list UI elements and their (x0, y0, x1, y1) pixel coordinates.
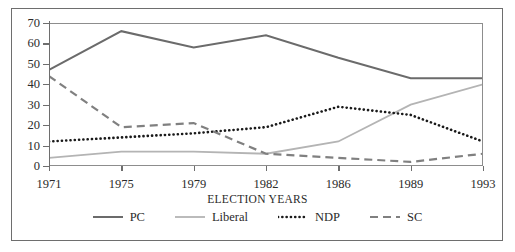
legend-label: PC (130, 211, 145, 224)
y-axis-tick-label: 0 (34, 160, 40, 173)
election-results-line-chart: 010203040506070 197119751979198219861989… (0, 0, 515, 252)
x-axis-tick-label: 1993 (471, 178, 496, 191)
plot-area: 010203040506070 (49, 23, 483, 166)
y-axis-tick (43, 125, 50, 126)
dotted-line-swatch (278, 212, 308, 222)
y-axis-tick (43, 105, 50, 106)
y-axis-tick-label: 10 (28, 139, 41, 152)
x-axis-tick-label: 1975 (109, 178, 134, 191)
y-axis-tick (43, 23, 50, 24)
y-axis-tick-label: 40 (28, 78, 41, 91)
legend-label: NDP (315, 211, 340, 224)
solid-dark-line-swatch (93, 212, 123, 222)
x-axis-tick-label: 1989 (398, 178, 423, 191)
x-axis-tick-label: 1986 (326, 178, 351, 191)
y-axis-tick-label: 20 (28, 119, 41, 132)
x-axis-tick-label: 1971 (37, 178, 62, 191)
legend-label: SC (407, 211, 422, 224)
y-axis-tick-label: 50 (28, 58, 41, 71)
solid-light-line-swatch (175, 212, 205, 222)
x-axis-title: ELECTION YEARS (0, 193, 515, 205)
y-axis-tick (43, 43, 50, 44)
y-axis-tick (43, 84, 50, 85)
x-axis-tick (411, 166, 412, 171)
x-axis-tick (483, 166, 484, 171)
legend-item-pc[interactable]: PC (93, 211, 145, 224)
plot-border (49, 23, 483, 166)
x-axis-tick (49, 166, 50, 171)
legend-item-liberal[interactable]: Liberal (175, 211, 248, 224)
x-axis-tick-label: 1982 (254, 178, 279, 191)
y-axis-tick-label: 60 (28, 37, 41, 50)
y-axis-tick (43, 64, 50, 65)
dashed-line-swatch (370, 212, 400, 222)
y-axis-tick-label: 70 (28, 17, 41, 30)
legend-item-ndp[interactable]: NDP (278, 211, 340, 224)
legend-label: Liberal (212, 211, 248, 224)
chart-legend: PCLiberalNDPSC (0, 211, 515, 224)
legend-item-sc[interactable]: SC (370, 211, 422, 224)
x-axis-tick-label: 1979 (181, 178, 206, 191)
x-axis-tick (338, 166, 339, 171)
x-axis-tick (194, 166, 195, 171)
y-axis-tick (43, 146, 50, 147)
x-axis-tick (266, 166, 267, 171)
y-axis-tick-label: 30 (28, 98, 41, 111)
x-axis-tick (121, 166, 122, 171)
